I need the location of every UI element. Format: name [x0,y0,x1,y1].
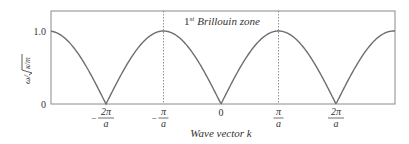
y-tick-label: 0 [41,99,46,110]
x-tick-label: 2πa [328,106,344,129]
y-axis-ticks: 01.0 [34,26,47,110]
svg-text:2π: 2π [331,106,342,117]
x-tick-label: πa− [151,106,168,129]
dispersion-curve [51,31,395,104]
x-tick-label: 2πa− [91,106,114,129]
svg-text:a: a [161,118,166,129]
svg-text:a: a [334,118,339,129]
x-tick-label: πa [274,106,284,129]
svg-text:ω/: ω/ [22,74,32,84]
svg-text:π: π [276,106,282,117]
y-tick-label: 1.0 [34,26,47,37]
x-axis-ticks: 2πa−πa−0πa2πa [91,106,344,129]
svg-text:π: π [161,106,167,117]
y-axis-label: ω/ κ/m [22,54,32,84]
x-axis-label: Wave vector k [190,127,252,139]
svg-text:2π: 2π [101,106,112,117]
svg-text:a: a [276,118,281,129]
svg-text:κ/m: κ/m [23,57,32,69]
svg-text:a: a [104,118,109,129]
svg-text:0: 0 [219,107,224,118]
svg-text:−: − [91,113,96,123]
dispersion-chart: 1stBrillouin zone 01.0 2πa−πa−0πa2πa ω/ … [0,0,409,144]
svg-text:−: − [151,113,156,123]
zone-annotation: 1stBrillouin zone [184,15,260,27]
x-tick-label: 0 [219,107,224,118]
